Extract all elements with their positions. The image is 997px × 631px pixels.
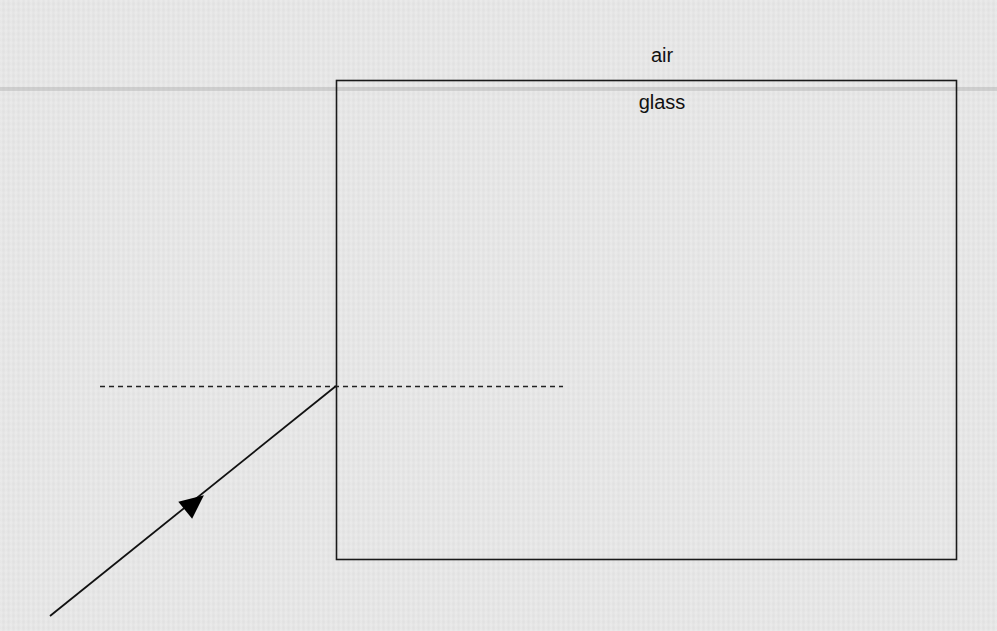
diagram-drawing xyxy=(0,0,997,631)
air-label: air xyxy=(651,44,673,67)
diagram-canvas: air glass xyxy=(0,0,997,631)
glass-block xyxy=(337,81,957,560)
glass-label: glass xyxy=(639,91,686,114)
